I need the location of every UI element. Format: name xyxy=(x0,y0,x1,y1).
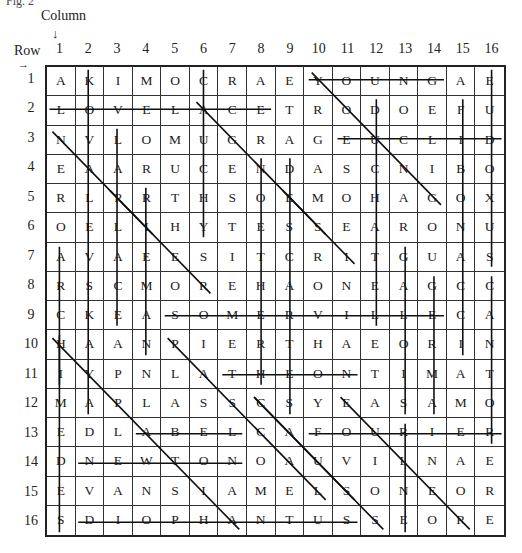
grid-cell: L xyxy=(304,477,333,506)
grid-cell: I xyxy=(418,418,447,447)
grid-cell: T xyxy=(218,360,247,389)
grid-cell: S xyxy=(333,506,362,535)
grid-cell: E xyxy=(247,301,276,330)
grid-cell: N xyxy=(247,155,276,184)
grid-cell: H xyxy=(190,184,219,213)
grid-cell: M xyxy=(218,301,247,330)
grid-cell: O xyxy=(418,213,447,242)
row-number: 2 xyxy=(20,100,42,116)
grid-cell: N xyxy=(333,360,362,389)
grid-cell: T xyxy=(247,243,276,272)
grid-cell: S xyxy=(218,184,247,213)
grid-cell: I xyxy=(47,360,76,389)
grid-cell: L xyxy=(390,301,419,330)
grid-cell: A xyxy=(76,155,105,184)
grid-cell: K xyxy=(76,67,105,96)
grid-cell: D xyxy=(76,418,105,447)
grid-cell: E xyxy=(475,506,504,535)
grid-cell: D xyxy=(475,126,504,155)
column-numbers: 12345678910111213141516 xyxy=(45,41,506,61)
grid-cell: L xyxy=(390,447,419,476)
grid-cell: E xyxy=(361,330,390,359)
grid-cell: A xyxy=(276,447,305,476)
grid-cell: O xyxy=(447,184,476,213)
grid-cell: S xyxy=(76,272,105,301)
grid-cell: N xyxy=(390,67,419,96)
grid-cell: C xyxy=(247,418,276,447)
grid-cell: E xyxy=(333,389,362,418)
grid-cell: A xyxy=(475,301,504,330)
grid-cell: E xyxy=(247,96,276,125)
grid-cell: V xyxy=(333,447,362,476)
grid-cell: E xyxy=(47,155,76,184)
grid-cell: O xyxy=(190,301,219,330)
grid-cell: T xyxy=(161,184,190,213)
grid-cell: I xyxy=(390,360,419,389)
grid-cell: U xyxy=(475,96,504,125)
grid-cell: A xyxy=(218,477,247,506)
grid-cell: L xyxy=(218,418,247,447)
grid-cell: E xyxy=(190,418,219,447)
grid-cell: E xyxy=(218,155,247,184)
column-number: 12 xyxy=(362,41,391,57)
row-number: 7 xyxy=(20,248,42,264)
grid-cell: G xyxy=(304,126,333,155)
grid-cell: S xyxy=(304,213,333,242)
grid-cell: H xyxy=(361,184,390,213)
grid-cell: M xyxy=(304,184,333,213)
grid-cell: C xyxy=(47,301,76,330)
grid-cell: G xyxy=(418,272,447,301)
grid-cell: P xyxy=(104,184,133,213)
grid-cell: O xyxy=(390,96,419,125)
grid-cell: E xyxy=(247,213,276,242)
column-number: 10 xyxy=(304,41,333,57)
grid-cell: T xyxy=(361,243,390,272)
grid-cell: R xyxy=(190,272,219,301)
grid-cell: M xyxy=(47,389,76,418)
grid-cell: I xyxy=(333,301,362,330)
grid-cell: R xyxy=(218,67,247,96)
grid-cell: O xyxy=(447,477,476,506)
grid-cell: F xyxy=(447,96,476,125)
column-number: 5 xyxy=(160,41,189,57)
grid-cell: I xyxy=(418,155,447,184)
grid-cell: L xyxy=(76,184,105,213)
grid-cell: E xyxy=(47,477,76,506)
grid-cell: N xyxy=(333,272,362,301)
grid-cell: H xyxy=(247,272,276,301)
grid-cell: E xyxy=(76,213,105,242)
row-number: 4 xyxy=(20,159,42,175)
grid-cell: E xyxy=(390,506,419,535)
grid-cell: V xyxy=(76,126,105,155)
grid-cell: O xyxy=(390,330,419,359)
grid-cell: V xyxy=(304,301,333,330)
grid-cell: P xyxy=(104,389,133,418)
grid-cell: A xyxy=(276,126,305,155)
row-numbers: 12345678910111213141516 xyxy=(20,65,42,537)
grid-cell: A xyxy=(47,243,76,272)
grid-cell: S xyxy=(475,243,504,272)
grid-cell: O xyxy=(475,389,504,418)
grid-cell: P xyxy=(104,360,133,389)
grid-cell: N xyxy=(390,155,419,184)
grid-cell: C xyxy=(475,272,504,301)
grid-cell: A xyxy=(247,67,276,96)
grid-cell: C xyxy=(447,272,476,301)
grid-cell: O xyxy=(333,184,362,213)
grid-cell: O xyxy=(161,272,190,301)
grid-cell: I xyxy=(361,447,390,476)
grid-cell: A xyxy=(333,330,362,359)
grid-cell: E xyxy=(418,301,447,330)
grid-cell: S xyxy=(333,477,362,506)
grid-cell: C xyxy=(247,389,276,418)
grid-cell: A xyxy=(418,389,447,418)
grid-cell: C xyxy=(104,272,133,301)
grid-cell: M xyxy=(418,360,447,389)
grid-cell: L xyxy=(133,389,162,418)
grid-cell: N xyxy=(390,477,419,506)
grid-cell: A xyxy=(161,389,190,418)
column-number: 1 xyxy=(45,41,74,57)
grid-cell: A xyxy=(190,360,219,389)
grid-cell: L xyxy=(104,418,133,447)
grid-cell: B xyxy=(447,155,476,184)
